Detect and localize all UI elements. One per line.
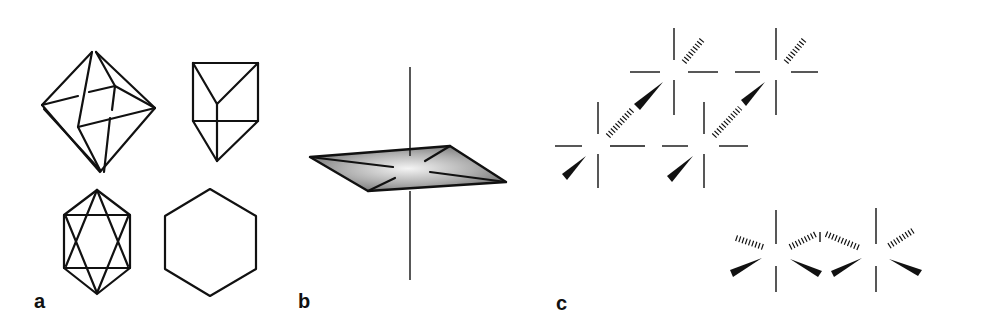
panel-c: c <box>555 28 922 314</box>
mn-dimer <box>730 208 922 292</box>
octahedron-shape <box>42 52 155 172</box>
figure-canvas: a b <box>0 0 985 327</box>
hexagonal-star-shape <box>64 190 130 294</box>
mo-center-4 <box>667 102 748 188</box>
equatorial-plane <box>310 146 506 191</box>
hexagon-shape <box>165 189 256 296</box>
trigonal-prism-shape <box>193 63 258 161</box>
panel-b: b <box>298 67 506 312</box>
mo-center-1 <box>630 28 718 115</box>
panel-label-b: b <box>298 290 310 312</box>
panel-label-a: a <box>34 290 46 312</box>
panel-label-c: c <box>556 292 567 314</box>
mo-center-3 <box>555 102 645 188</box>
panel-a: a <box>34 52 258 312</box>
